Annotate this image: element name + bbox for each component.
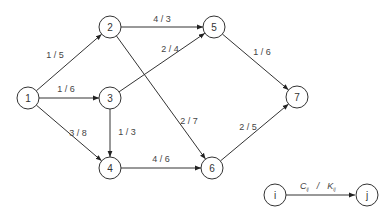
edge-1-2 [36, 34, 101, 91]
node-label-2: 2 [107, 22, 113, 33]
edges-layer: 1 / 51 / 63 / 84 / 32 / 72 / 41 / 34 / 6… [36, 14, 288, 168]
legend-node-j-label: j [365, 190, 368, 201]
legend: i j Cij/Kij [264, 181, 378, 206]
edge-label-2-5: 4 / 3 [153, 14, 171, 24]
node-label-7: 7 [294, 92, 300, 103]
node-2: 2 [99, 16, 121, 38]
node-label-1: 1 [25, 93, 31, 104]
node-label-4: 4 [107, 163, 113, 174]
node-4: 4 [99, 157, 121, 179]
legend-edge-label: Cij/Kij [300, 181, 336, 192]
node-5: 5 [203, 16, 225, 38]
node-label-3: 3 [107, 93, 113, 104]
edge-6-7 [220, 104, 288, 161]
edge-label-6-7: 2 / 5 [239, 122, 257, 132]
edge-label-4-6: 4 / 6 [152, 154, 170, 164]
legend-node-i-label: i [274, 190, 276, 201]
node-7: 7 [286, 86, 308, 108]
edge-label-1-2: 1 / 5 [46, 50, 64, 60]
edge-3-5 [119, 33, 205, 92]
node-6: 6 [201, 157, 223, 179]
node-label-5: 5 [211, 22, 217, 33]
edge-label-1-3: 1 / 6 [57, 84, 75, 94]
edge-label-3-5: 2 / 4 [161, 44, 179, 54]
edge-label-5-7: 1 / 6 [253, 47, 271, 57]
legend-separator: / [316, 181, 321, 191]
edge-label-2-6: 2 / 7 [180, 116, 198, 126]
edge-2-6 [116, 36, 205, 159]
node-label-6: 6 [209, 163, 215, 174]
node-3: 3 [99, 87, 121, 109]
edge-label-3-4: 1 / 3 [118, 127, 136, 137]
network-diagram: 1 / 51 / 63 / 84 / 32 / 72 / 41 / 34 / 6… [0, 0, 388, 220]
legend-c-subscript: ij [307, 186, 310, 192]
edge-label-1-4: 3 / 8 [69, 128, 87, 138]
edge-5-7 [222, 34, 288, 90]
node-1: 1 [17, 87, 39, 109]
legend-k-subscript: ij [333, 186, 336, 192]
